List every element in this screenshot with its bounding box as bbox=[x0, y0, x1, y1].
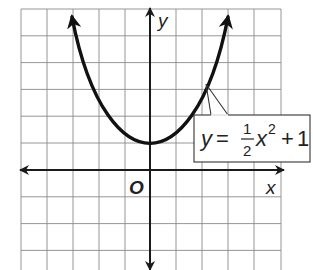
equation-variable: x bbox=[255, 126, 268, 151]
equation-exponent: 2 bbox=[268, 121, 276, 137]
equation-lhs: y bbox=[199, 126, 214, 151]
origin-label: O bbox=[129, 177, 144, 198]
equation-label: y = 1 2 x 2 + 1 bbox=[194, 115, 310, 162]
fraction-numerator: 1 bbox=[243, 120, 251, 137]
callout-pointer bbox=[206, 84, 228, 115]
fraction-denominator: 2 bbox=[243, 142, 251, 159]
equation-equals: = bbox=[216, 126, 229, 151]
x-axis-label: x bbox=[265, 177, 277, 198]
y-axis-label: y bbox=[156, 10, 169, 31]
coordinate-graph: y x O y = 1 2 x 2 + 1 bbox=[0, 0, 313, 270]
equation-plus: + bbox=[281, 126, 294, 151]
equation-constant: 1 bbox=[297, 126, 309, 151]
